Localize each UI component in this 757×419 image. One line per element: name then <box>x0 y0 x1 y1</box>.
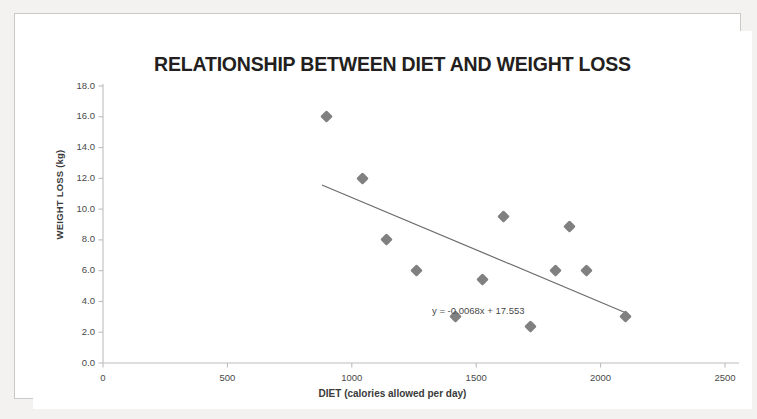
trendline <box>322 185 628 314</box>
y-tick-label: 8.0 <box>51 233 95 244</box>
y-tick-label: 0.0 <box>51 357 95 368</box>
x-tick-label: 1000 <box>327 372 377 383</box>
y-tick-label: 14.0 <box>51 141 95 152</box>
plot-canvas <box>33 31 752 409</box>
figure-container: RELATIONSHIP BETWEEN DIET AND WEIGHT LOS… <box>0 0 757 419</box>
y-tick-label: 12.0 <box>51 172 95 183</box>
y-tick-label: 6.0 <box>51 264 95 275</box>
y-tick-label: 2.0 <box>51 326 95 337</box>
x-tick-label: 2500 <box>700 372 750 383</box>
y-tick-label: 4.0 <box>51 295 95 306</box>
x-tick-label: 1500 <box>451 372 501 383</box>
trendline-equation-label: y = -0.0068x + 17.553 <box>432 305 524 316</box>
x-tick-label: 2000 <box>576 372 626 383</box>
x-tick-label: 0 <box>78 372 128 383</box>
x-tick-label: 500 <box>202 372 252 383</box>
y-tick-label: 16.0 <box>51 110 95 121</box>
figure-frame: RELATIONSHIP BETWEEN DIET AND WEIGHT LOS… <box>14 13 741 399</box>
chart-card: RELATIONSHIP BETWEEN DIET AND WEIGHT LOS… <box>33 31 752 409</box>
y-tick-label: 18.0 <box>51 80 95 91</box>
y-tick-label: 10.0 <box>51 203 95 214</box>
